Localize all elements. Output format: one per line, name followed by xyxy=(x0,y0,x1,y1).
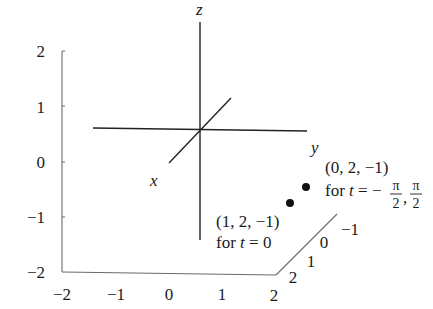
point-b-param: for t = − xyxy=(325,181,382,200)
data-point-b xyxy=(302,183,310,191)
annotation-point-a: (1, 2, −1) for t = 0 xyxy=(216,212,279,252)
point-b-coords: (0, 2, −1) xyxy=(325,158,388,177)
annotation-point-b: (0, 2, −1) for t = − π 2 , π 2 xyxy=(325,158,422,211)
tick-label: 0 xyxy=(165,285,174,304)
coordinate-axes xyxy=(93,22,307,240)
3d-plot: 2 1 0 −1 −2 −2 −1 0 1 2 2 1 0 −1 z y x (… xyxy=(0,0,433,309)
tick-label: 0 xyxy=(320,233,329,252)
frac2-numerator: π xyxy=(412,178,419,193)
bottom-box-axis xyxy=(62,272,276,275)
tick-label: 1 xyxy=(307,252,316,271)
tick-label: 2 xyxy=(270,286,279,305)
tick-label: −1 xyxy=(107,285,125,304)
tick-label: 0 xyxy=(37,153,46,172)
tick-label: 2 xyxy=(37,42,46,61)
depth-tick-labels: 2 1 0 −1 xyxy=(289,220,359,287)
point-a-param: for t = 0 xyxy=(216,233,271,252)
tick-label: 1 xyxy=(37,98,46,117)
data-point-a xyxy=(286,199,294,207)
vertical-tick-labels: 2 1 0 −1 −2 xyxy=(27,42,45,282)
tick-label: 1 xyxy=(218,285,227,304)
tick-label: −1 xyxy=(341,220,359,239)
z-axis-label: z xyxy=(195,0,203,19)
bottom-tick-labels: −2 −1 0 1 2 xyxy=(53,285,278,305)
x-axis-label: x xyxy=(149,171,158,190)
tick-label: −2 xyxy=(27,263,45,282)
tick-label: −1 xyxy=(27,208,45,227)
tick-label: 2 xyxy=(289,268,298,287)
frac2-denominator: 2 xyxy=(413,196,420,211)
y-axis-label: y xyxy=(309,138,319,157)
point-a-coords: (1, 2, −1) xyxy=(216,212,279,231)
frac1-denominator: 2 xyxy=(393,196,400,211)
frac1-numerator: π xyxy=(392,178,399,193)
frac-separator: , xyxy=(403,188,407,207)
tick-label: −2 xyxy=(53,285,71,304)
